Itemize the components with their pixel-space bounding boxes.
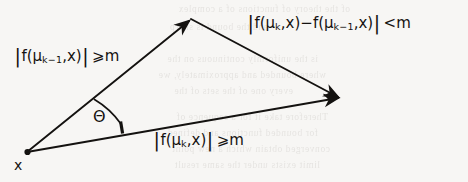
abs-bar-close: | [82,45,88,67]
abs-bar-open: | [15,45,21,67]
label-top-right-difference: |f(μk,x)−f(μk−1,x)|<m [247,14,411,33]
abs-bar-open: | [248,12,254,34]
function-f: f( [160,131,171,149]
relation-geq-m: ⩾m [217,131,244,149]
mu-symbol-second: μ [324,14,334,32]
label-left-side-magnitude: |f(μk−1,x)|⩾m [14,47,119,66]
mu-subscript-second: k−1 [334,21,354,32]
label-bottom-magnitude: |f(μk,x)|⩾m [153,131,244,150]
function-args-first: ,x) [281,14,301,32]
function-args: ,x) [187,131,207,149]
mu-subscript: k−1 [42,54,62,65]
function-args: ,x) [62,47,82,65]
mu-symbol: μ [33,47,43,65]
relation-geq-m: ⩾m [92,47,119,65]
vertex-origin-dot [24,149,30,155]
abs-bar-close: | [207,129,213,151]
function-args-second: ,x) [354,14,374,32]
abs-bar-close: | [374,12,380,34]
mu-symbol: μ [172,131,182,149]
angle-arc-tick [121,122,123,134]
function-f-first: f( [254,14,265,32]
mu-symbol-first: μ [266,14,276,32]
figure-canvas: of the theory of functions of a complexa… [0,0,468,182]
label-angle-theta: Θ [93,107,106,126]
function-f-second: f( [313,14,324,32]
relation-lt-m: <m [384,14,411,32]
abs-bar-open: | [154,129,160,151]
label-vertex-x: x [14,157,22,173]
minus-sign: − [300,14,313,32]
function-f: f( [21,47,32,65]
